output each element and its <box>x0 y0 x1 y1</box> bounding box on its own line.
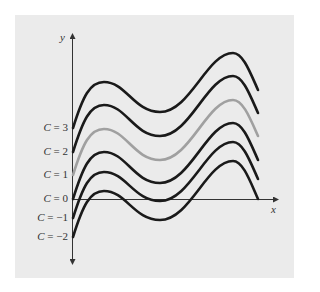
curve-label: C = 3 <box>43 122 68 133</box>
curve-label: C = 1 <box>43 169 68 180</box>
curve-c-2 <box>73 76 258 152</box>
x-axis-label: x <box>271 204 276 215</box>
curve-label: C = 2 <box>43 146 68 157</box>
curve-label: C = 0 <box>43 193 68 204</box>
curve-label: C = −2 <box>37 231 68 242</box>
curve-family <box>73 53 258 237</box>
y-axis-label: y <box>60 32 65 43</box>
curve-label: C = −1 <box>37 212 68 223</box>
curve-c-3 <box>73 53 258 128</box>
